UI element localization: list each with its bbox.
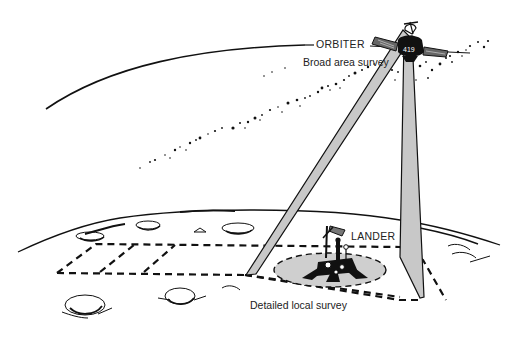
- horizon-ridge: [180, 210, 235, 212]
- broad-area-survey-caption: Broad area survey: [303, 56, 389, 68]
- lander-label: LANDER: [351, 230, 395, 242]
- right-survey-beam: [400, 36, 424, 298]
- svg-text:419: 419: [403, 46, 415, 53]
- orbiter-lander-survey-diagram: 419: [0, 0, 520, 339]
- detailed-local-survey-caption: Detailed local survey: [250, 299, 347, 311]
- orbit-arc: [46, 45, 305, 109]
- orbiter-label: ORBITER: [316, 38, 365, 50]
- planet-horizon: [18, 210, 500, 252]
